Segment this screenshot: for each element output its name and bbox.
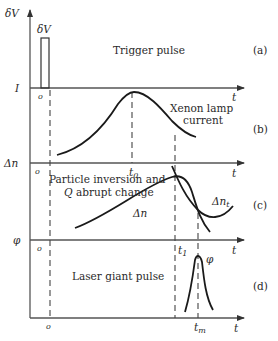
panel-b-tag: (b) bbox=[253, 123, 268, 135]
panel-a-title: Trigger pulse bbox=[113, 44, 185, 56]
time-label-d: t bbox=[232, 244, 237, 256]
axis-label-photon: φ bbox=[13, 234, 21, 246]
panel-a-tag: (a) bbox=[253, 44, 267, 56]
pulse-label-delta-v: δV bbox=[37, 23, 52, 35]
laser-pulse-label: φ bbox=[206, 253, 214, 265]
panel-b-title-line2: current bbox=[183, 114, 224, 126]
t1-label: t1 bbox=[178, 244, 187, 258]
origin-label-a: o bbox=[38, 92, 43, 101]
q-switch-timing-diagram: δV I Δn φ t t t t o o o o δV Trigger pul… bbox=[0, 0, 278, 341]
panel-d-title: Laser giant pulse bbox=[72, 270, 164, 282]
panel-d-tag: (d) bbox=[253, 280, 268, 292]
origin-label-b: o bbox=[35, 167, 40, 176]
threshold-label: Δnt bbox=[211, 195, 230, 209]
axis-label-current: I bbox=[14, 82, 20, 94]
panel-c-tag: (c) bbox=[253, 199, 267, 211]
tm-label: tm bbox=[194, 321, 206, 335]
panel-c-title-line1: Particle inversion and bbox=[49, 173, 166, 185]
origin-label-d: o bbox=[46, 322, 51, 331]
panel-c-title-line2: Q abrupt change bbox=[64, 186, 154, 199]
origin-label-c: o bbox=[37, 244, 42, 253]
time-label-bottom: t bbox=[234, 322, 239, 334]
time-label-c: t bbox=[232, 167, 237, 179]
axis-label-inversion: Δn bbox=[3, 157, 19, 169]
trigger-pulse bbox=[41, 38, 49, 88]
inversion-curve-label: Δn bbox=[132, 207, 148, 219]
panel-b-title-line1: Xenon lamp bbox=[170, 102, 233, 114]
axis-label-delta-v: δV bbox=[5, 7, 20, 19]
threshold-curve bbox=[172, 166, 233, 217]
